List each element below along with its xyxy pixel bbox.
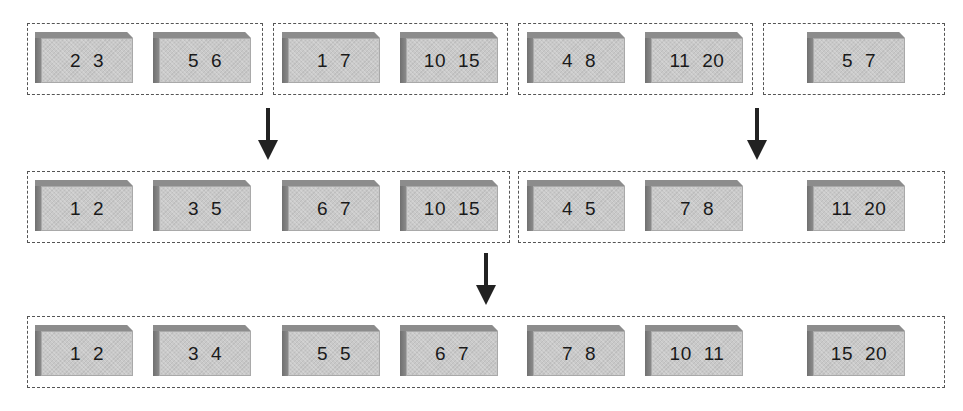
block: 23 (35, 32, 133, 83)
block: 1520 (807, 325, 905, 376)
block: 1120 (645, 32, 743, 83)
block: 12 (35, 180, 133, 231)
block: 35 (153, 180, 251, 231)
block: 57 (807, 32, 905, 83)
block: 1120 (807, 180, 905, 231)
block: 17 (282, 32, 380, 83)
block: 55 (282, 325, 380, 376)
down-arrow-icon (258, 108, 278, 160)
down-arrow-icon (747, 108, 767, 160)
block: 48 (527, 32, 625, 83)
block: 78 (527, 325, 625, 376)
block: 1011 (645, 325, 743, 376)
block: 1015 (400, 180, 498, 231)
block: 34 (153, 325, 251, 376)
block: 12 (35, 325, 133, 376)
block: 78 (645, 180, 743, 231)
block: 56 (153, 32, 251, 83)
block: 67 (400, 325, 498, 376)
block: 1015 (400, 32, 498, 83)
block: 67 (282, 180, 380, 231)
down-arrow-icon (476, 253, 496, 305)
block: 45 (527, 180, 625, 231)
